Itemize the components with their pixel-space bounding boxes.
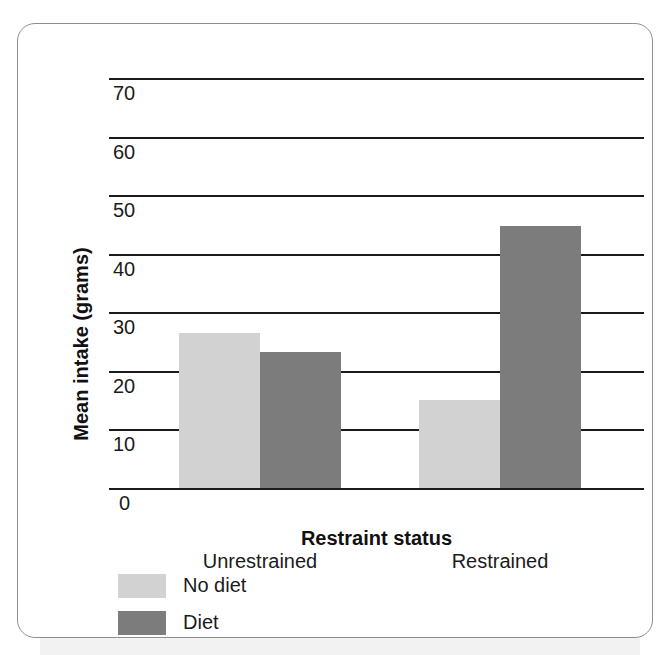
- plot-area: 70 60 50 40 30 20 10 0 Unrestrained Rest…: [109, 78, 644, 488]
- bar-restrained-no-diet: [419, 400, 500, 488]
- bar-unrestrained-diet: [260, 352, 341, 488]
- gridline-60: [109, 137, 644, 139]
- gridline-50: [109, 195, 644, 197]
- bar-restrained-diet: [500, 226, 581, 488]
- figure-frame: Mean intake (grams) 70 60 50 40 30 20 10…: [17, 23, 653, 638]
- y-tick-0-label: 0: [119, 493, 167, 513]
- legend: No diet Diet: [118, 567, 246, 641]
- y-tick-40-label: 40: [113, 259, 161, 279]
- legend-swatch-no-diet: [118, 574, 166, 598]
- legend-swatch-diet: [118, 611, 166, 635]
- x-tick-restrained: Restrained: [420, 550, 580, 573]
- y-tick-30-label: 30: [113, 317, 161, 337]
- y-tick-20-label: 20: [113, 376, 161, 396]
- x-axis-line: [109, 488, 644, 490]
- y-axis-title-text: Mean intake (grams): [70, 204, 93, 484]
- legend-label-diet: Diet: [183, 611, 219, 634]
- legend-label-no-diet: No diet: [183, 574, 246, 597]
- y-axis-title: Mean intake (grams): [48, 0, 71, 204]
- gridline-70: [109, 78, 644, 80]
- y-tick-60-label: 60: [113, 142, 161, 162]
- y-tick-70-label: 70: [113, 83, 161, 103]
- y-tick-50-label: 50: [113, 200, 161, 220]
- x-axis-title: Restraint status: [109, 527, 644, 550]
- legend-item-no-diet: No diet: [118, 567, 246, 604]
- legend-item-diet: Diet: [118, 604, 246, 641]
- bar-unrestrained-no-diet: [179, 333, 260, 488]
- y-tick-10-label: 10: [113, 434, 161, 454]
